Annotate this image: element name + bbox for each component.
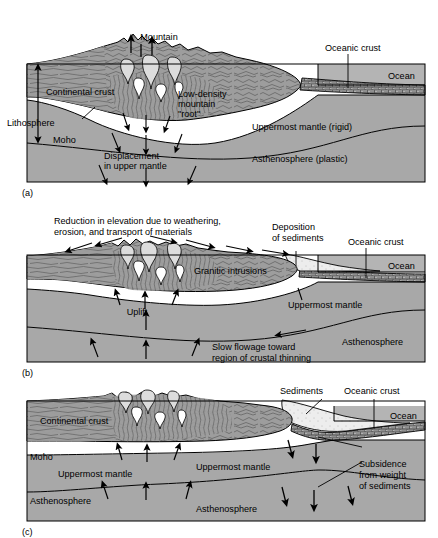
panel-c-label-continental-crust: Continental crust	[40, 416, 109, 426]
panel-b-label-slow-flowage-line2: region of crustal thinning	[212, 353, 311, 363]
panel-b-label-ocean: Ocean	[388, 261, 415, 271]
panel-a-label-uppermost-mantle: Uppermost mantle (rigid)	[252, 122, 352, 132]
panel-c: Sediments Oceanic crust Ocean Continenta…	[22, 386, 425, 537]
panel-b-label-deposition-line1: Deposition	[272, 222, 315, 232]
panel-b-label-uplift: Uplift	[127, 307, 148, 317]
panel-c-label-subsidence-line1: Subsidence	[359, 459, 407, 469]
panel-a-label-continental-crust: Continental crust	[46, 87, 115, 97]
panel-a-label-mountain: Mountain	[140, 32, 177, 42]
panel-b-label-uppermost-mantle: Uppermost mantle	[288, 300, 362, 310]
panel-c-label-uppermost-mantle-left: Uppermost mantle	[58, 469, 132, 479]
panel-b-label-deposition-line2: of sediments	[272, 233, 324, 243]
panel-a-label-displacement-line2: in upper mantle	[104, 161, 167, 171]
panel-a-label-lithosphere: Lithosphere	[7, 118, 55, 128]
panel-b-label-slow-flowage-line1: Slow flowage toward	[212, 342, 295, 352]
panel-c-caption: (c)	[22, 527, 33, 537]
panel-a-label-asthenosphere: Asthenosphere (plastic)	[252, 154, 348, 164]
panel-b-label-asthenosphere: Asthenosphere	[342, 337, 403, 347]
panel-c-label-subsidence-line3: of sediments	[359, 481, 411, 491]
panel-c-label-asthenosphere-right: Asthenosphere	[196, 504, 257, 514]
panel-b-label-reduction-line2: erosion, and transport of materials	[54, 227, 192, 237]
panel-b-label-granitic-intrusions: Granitic intrusions	[194, 266, 267, 276]
panel-c-label-asthenosphere-left: Asthenosphere	[30, 496, 91, 506]
panel-a-caption: (a)	[22, 188, 33, 198]
panel-b-label-reduction-line1: Reduction in elevation due to weathering…	[54, 216, 221, 226]
panel-a-label-low-density-root-line2: mountain	[178, 99, 215, 109]
panel-a-label-low-density-root-line1: Low-density	[178, 89, 227, 99]
panel-a-label-moho: Moho	[53, 135, 76, 145]
panel-c-label-oceanic-crust: Oceanic crust	[344, 386, 400, 396]
panel-a-label-oceanic-crust: Oceanic crust	[325, 43, 381, 53]
panel-c-label-sediments: Sediments	[280, 386, 323, 396]
panel-a-label-displacement-line1: Displacement	[104, 151, 160, 161]
isostasy-figure: Mountain Oceanic crust Ocean Continental…	[0, 0, 438, 538]
panel-c-label-moho: Moho	[30, 452, 53, 462]
panel-c-label-uppermost-mantle-right: Uppermost mantle	[196, 462, 270, 472]
panel-c-label-subsidence-line2: from weight	[359, 470, 406, 480]
panel-a-label-ocean: Ocean	[388, 71, 415, 81]
panel-b-label-oceanic-crust: Oceanic crust	[348, 237, 404, 247]
isostasy-diagram-svg: Mountain Oceanic crust Ocean Continental…	[0, 0, 438, 538]
panel-b-caption: (b)	[22, 368, 33, 378]
panel-a-label-low-density-root-line3: "root"	[178, 109, 200, 119]
panel-c-label-ocean: Ocean	[390, 411, 417, 421]
